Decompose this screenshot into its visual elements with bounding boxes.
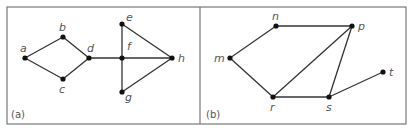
node-t: [380, 69, 385, 74]
edge-g-h: [122, 58, 172, 92]
node-label-n: n: [272, 10, 279, 23]
node-g: [119, 89, 124, 94]
panel-label-b: (b): [206, 109, 220, 120]
node-label-e: e: [126, 11, 133, 24]
node-label-r: r: [270, 101, 276, 114]
node-s: [326, 94, 331, 99]
node-m: [227, 55, 232, 60]
nodes-layer: [22, 21, 385, 99]
node-a: [22, 55, 27, 60]
node-label-h: h: [178, 52, 185, 65]
node-label-m: m: [214, 52, 225, 65]
node-label-s: s: [326, 101, 332, 114]
edge-m-r: [230, 58, 273, 97]
node-c: [60, 76, 65, 81]
edge-s-t: [329, 72, 383, 97]
edge-m-n: [230, 26, 276, 58]
node-p: [349, 23, 354, 28]
figure-frame: [7, 7, 406, 124]
edge-b-d: [63, 37, 89, 58]
edge-c-d: [63, 58, 89, 79]
node-label-d: d: [87, 42, 95, 55]
node-label-a: a: [20, 42, 27, 55]
edges-layer: [25, 24, 383, 97]
node-e: [119, 21, 124, 26]
node-label-b: b: [59, 21, 66, 34]
node-n: [273, 23, 278, 28]
node-r: [270, 94, 275, 99]
node-label-t: t: [389, 66, 394, 79]
frame-border: [7, 7, 406, 124]
node-f: [119, 55, 124, 60]
node-b: [60, 34, 65, 39]
node-label-c: c: [59, 83, 65, 96]
node-d: [86, 55, 91, 60]
node-label-g: g: [125, 91, 132, 104]
node-label-p: p: [357, 20, 365, 33]
node-h: [169, 55, 174, 60]
edge-a-c: [25, 58, 63, 79]
node-label-f: f: [127, 40, 133, 53]
panel-label-a: (a): [11, 109, 25, 120]
edge-a-b: [25, 37, 63, 58]
graph-figure: abcdefgh(a)mnprst(b): [0, 0, 412, 130]
graph-diagram-canvas: abcdefgh(a)mnprst(b): [0, 0, 412, 130]
